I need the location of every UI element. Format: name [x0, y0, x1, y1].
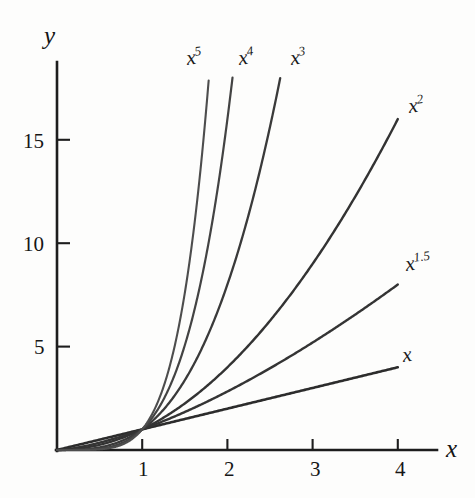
y-axis-ticks: [57, 140, 70, 347]
axes-group: [56, 62, 437, 451]
chart-plot-area: [0, 0, 475, 498]
curve-label-x5: x5: [185, 44, 204, 71]
curve-x3: [57, 78, 280, 450]
y-axis-label: y: [44, 22, 55, 50]
x-tick-label-1: 1: [138, 457, 149, 482]
y-tick-label-15: 15: [23, 129, 44, 154]
curve-x5: [57, 80, 209, 450]
curve-label-x4: x4: [237, 44, 256, 71]
curve-label-x15: x1.5: [404, 249, 433, 277]
x-tick-label-2: 2: [224, 457, 235, 482]
curve-label-x15-exponent: 1.5: [413, 248, 431, 265]
curve-label-x2: x2: [407, 92, 426, 119]
curve-x4: [57, 78, 233, 450]
x-tick-label-4: 4: [395, 457, 406, 482]
x-axis-label: x: [446, 435, 457, 463]
y-tick-label-10: 10: [23, 232, 44, 257]
y-tick-label-5: 5: [34, 335, 45, 360]
x-tick-label-3: 3: [310, 457, 321, 482]
curve-label-x3: x3: [289, 44, 308, 71]
curve-x: [57, 367, 398, 450]
curves-group: [57, 78, 398, 450]
figure-canvas: y x 1 2 3 4 5 10 15 x5 x4 x3 x2 x1.5 x: [0, 0, 475, 498]
x-axis-ticks: [142, 439, 398, 450]
